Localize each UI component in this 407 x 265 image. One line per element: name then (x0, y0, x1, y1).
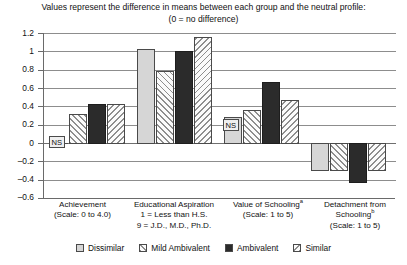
y-tick-label: 1.2 (0, 28, 34, 38)
chart-legend: Dissimilar Mild Ambivalent Ambivalent Si… (0, 243, 407, 253)
x-label-text: Schooling (336, 210, 372, 219)
legend-item-ambivalent[interactable]: Ambivalent (225, 243, 278, 253)
x-label-detachment: Detachment from Schoolingb (Scale: 1 to … (309, 200, 401, 231)
bar-aspiration-similar[interactable] (194, 37, 212, 144)
bar-group-detachment (311, 33, 389, 198)
bar-detachment-ambivalent[interactable] (349, 143, 367, 183)
footnote-marker-a: a (300, 198, 303, 204)
y-tick-label: 0 (0, 138, 34, 148)
x-label-line: 9 = J.D., M.D., Ph.D. (119, 221, 229, 231)
bar-achievement-ambivalent[interactable] (88, 104, 106, 144)
x-axis-line (43, 198, 395, 199)
chart-caption: Values represent the difference in means… (0, 2, 407, 25)
bar-value-ambivalent[interactable] (262, 82, 280, 144)
footnote-marker-b: b (371, 209, 374, 215)
bar-group-achievement: NS (50, 33, 128, 198)
bar-value-similar[interactable] (281, 100, 299, 144)
plot-area: NS NS (43, 33, 395, 198)
x-label-line: (Scale: 1 to 5) (222, 210, 314, 220)
bar-detachment-mild-ambivalent[interactable] (330, 143, 348, 171)
ns-badge-achievement: NS (49, 136, 65, 148)
legend-label-dissimilar: Dissimilar (88, 243, 124, 253)
legend-item-similar[interactable]: Similar (293, 243, 331, 253)
bar-achievement-mild-ambivalent[interactable] (69, 114, 87, 144)
legend-item-dissimilar[interactable]: Dissimilar (76, 243, 124, 253)
y-tick-label: 0.8 (0, 64, 34, 74)
x-label-value-of-schooling: Value of Schoolinga (Scale: 1 to 5) (222, 200, 314, 221)
x-label-line: (Scale: 1 to 5) (309, 221, 401, 231)
bar-aspiration-dissimilar[interactable] (137, 49, 155, 144)
y-tick-label: –0.4 (0, 174, 34, 184)
x-label-line: Value of Schoolinga (222, 200, 314, 210)
bar-value-mild-ambivalent[interactable] (243, 110, 261, 144)
bar-detachment-dissimilar[interactable] (311, 143, 329, 171)
bar-achievement-similar[interactable] (107, 104, 125, 144)
y-tick-label: 0.2 (0, 119, 34, 129)
bar-aspiration-mild-ambivalent[interactable] (156, 71, 174, 144)
bar-aspiration-ambivalent[interactable] (175, 51, 193, 144)
y-tick-label: 1 (0, 46, 34, 56)
bar-group-value-of-schooling: NS (224, 33, 302, 198)
caption-line-1: Values represent the difference in means… (41, 2, 365, 12)
y-tick-label: –0.2 (0, 156, 34, 166)
x-label-line: Educational Aspiration (119, 200, 229, 210)
x-label-educational-aspiration: Educational Aspiration 1 = Less than H.S… (119, 200, 229, 231)
bar-group-educational-aspiration (137, 33, 215, 198)
y-tick-label: 0.4 (0, 101, 34, 111)
legend-label-mild-ambivalent: Mild Ambivalent (151, 243, 210, 253)
x-label-text: Value of Schooling (233, 200, 300, 209)
legend-swatch-mild-ambivalent (139, 244, 147, 252)
legend-swatch-ambivalent (225, 244, 233, 252)
x-label-line: Schoolingb (309, 210, 401, 220)
legend-label-ambivalent: Ambivalent (237, 243, 278, 253)
legend-swatch-similar (293, 244, 301, 252)
x-label-line: 1 = Less than H.S. (119, 210, 229, 220)
legend-label-similar: Similar (305, 243, 331, 253)
y-tick-label: 0.6 (0, 83, 34, 93)
bar-detachment-similar[interactable] (368, 143, 386, 171)
ns-badge-value-of-schooling: NS (223, 119, 239, 131)
legend-swatch-dissimilar (76, 244, 84, 252)
y-tick-label: –0.6 (0, 192, 34, 202)
legend-item-mild-ambivalent[interactable]: Mild Ambivalent (139, 243, 210, 253)
caption-line-2: (0 = no difference) (0, 14, 407, 26)
chart-container: Values represent the difference in means… (0, 0, 407, 265)
x-label-line: Detachment from (309, 200, 401, 210)
